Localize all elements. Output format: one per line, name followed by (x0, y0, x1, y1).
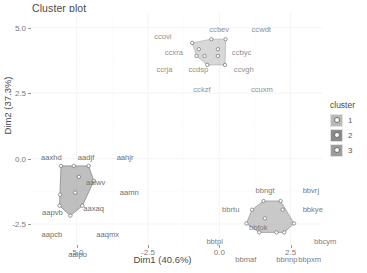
point-label: ccuxm (251, 86, 273, 94)
data-point[interactable] (263, 217, 266, 220)
legend-item-label: 1 (348, 116, 352, 125)
point-label: aadjf (78, 154, 94, 162)
cluster-hull (192, 39, 225, 65)
y-tick-label: -2.5 (0, 220, 26, 229)
y-tick-mark (28, 93, 31, 94)
data-point[interactable] (216, 48, 219, 51)
data-point[interactable] (245, 222, 248, 225)
point-label: ccrja (156, 66, 172, 74)
data-point[interactable] (224, 38, 227, 41)
point-label: bbngt (256, 187, 275, 195)
point-label: aapvb (42, 209, 63, 217)
point-label: bbkye (303, 206, 323, 214)
point-label: bbcym (314, 238, 336, 246)
legend-key-swatch (330, 144, 343, 157)
data-point[interactable] (69, 214, 72, 217)
point-label: bbrtu (222, 206, 239, 214)
legend-point-icon (334, 147, 340, 153)
data-point[interactable] (275, 231, 278, 234)
legend-point-icon (334, 132, 340, 138)
x-tick-mark (291, 245, 292, 248)
data-point[interactable] (191, 41, 194, 44)
data-point[interactable] (279, 199, 282, 202)
point-label: aamn (120, 189, 139, 197)
y-axis-title: Dim2 (37.3%) (2, 66, 13, 146)
point-label: aaqmx (96, 231, 119, 239)
point-label: aalwv (86, 179, 105, 187)
data-point[interactable] (283, 231, 286, 234)
point-label: cckzf (193, 86, 210, 94)
cluster-plot: Cluster plot 5.02.50.0-2.5 -5.0-2.50.02.… (0, 0, 367, 273)
y-tick-mark (28, 159, 31, 160)
data-point[interactable] (59, 164, 62, 167)
point-label: aaxhd (41, 154, 62, 162)
legend-key-swatch (330, 114, 343, 127)
data-point[interactable] (58, 204, 61, 207)
x-tick-mark (77, 245, 78, 248)
y-tick-mark (28, 224, 31, 225)
point-label: ccvgh (234, 66, 254, 74)
data-point[interactable] (250, 208, 253, 211)
x-tick-mark (148, 245, 149, 248)
point-label: bbnnp (276, 256, 297, 264)
point-label: bbvrj (303, 187, 319, 195)
point-label: aalpo (68, 251, 87, 259)
y-tick-mark (28, 28, 31, 29)
point-label: ccwdt (252, 26, 271, 34)
legend-item-label: 2 (348, 131, 352, 140)
data-point[interactable] (74, 191, 77, 194)
point-label: bbfok (249, 224, 268, 232)
legend-point-icon (334, 117, 340, 123)
point-label: ccbyc (232, 49, 251, 57)
y-tick-label: 5.0 (0, 24, 26, 33)
point-label: ccxra (165, 49, 183, 57)
legend-title: cluster (330, 100, 367, 110)
legend-items: 123 (330, 113, 367, 157)
point-label: ccovi (154, 33, 171, 41)
data-point[interactable] (203, 54, 206, 57)
legend-item-2[interactable]: 2 (330, 128, 367, 142)
data-point[interactable] (216, 54, 219, 57)
data-point[interactable] (262, 199, 265, 202)
legend-item-3[interactable]: 3 (330, 143, 367, 157)
legend: cluster 123 (330, 100, 367, 158)
data-point[interactable] (58, 193, 61, 196)
data-point[interactable] (195, 54, 198, 57)
y-tick-label: 0.0 (0, 155, 26, 164)
point-label: aaxaq (83, 205, 104, 213)
data-point[interactable] (197, 48, 200, 51)
data-point[interactable] (87, 164, 90, 167)
legend-item-1[interactable]: 1 (330, 113, 367, 127)
data-point[interactable] (281, 208, 284, 211)
data-point[interactable] (77, 175, 80, 178)
data-point[interactable] (210, 38, 213, 41)
legend-item-label: 3 (348, 146, 352, 155)
plot-panel (31, 12, 322, 245)
point-label: bbmaf (235, 256, 256, 264)
point-label: bbtpl (206, 238, 222, 246)
point-label: bbpxm (298, 256, 321, 264)
data-point[interactable] (223, 63, 226, 66)
point-label: ccdsp (188, 66, 208, 74)
legend-key-swatch (330, 129, 343, 142)
point-label: aahjr (117, 154, 134, 162)
plot-canvas (31, 12, 322, 245)
data-point[interactable] (292, 222, 295, 225)
point-label: ccbev (209, 26, 229, 34)
point-label: aapcb (42, 231, 63, 239)
data-point[interactable] (72, 164, 75, 167)
